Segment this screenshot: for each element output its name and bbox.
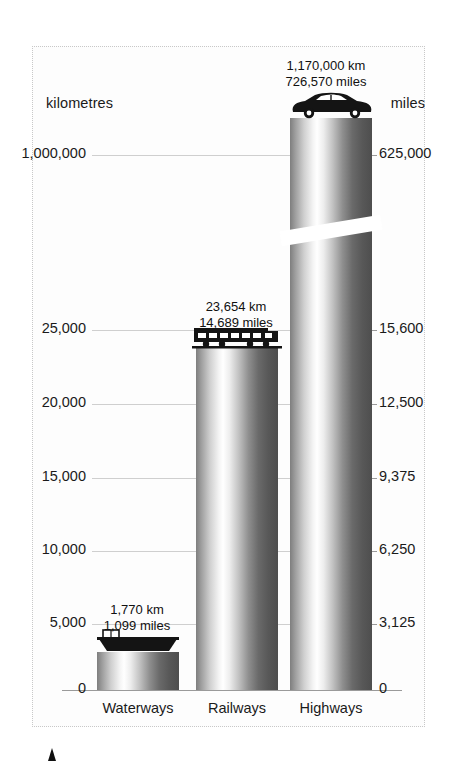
bar-railways — [196, 348, 278, 690]
right-axis-tick-label: 12,500 — [379, 395, 423, 410]
value-label-km: 1,770 km — [67, 602, 207, 618]
triangle-marker-icon — [48, 748, 56, 761]
chart-figure: kilometres miles 1,000,00025,00020,00015… — [0, 0, 455, 770]
right-axis-tick-label: 0 — [379, 681, 387, 696]
value-label-km: 23,654 km — [166, 299, 306, 315]
left-axis-tick-label: 0 — [78, 681, 86, 696]
left-axis-tick-label: 10,000 — [42, 542, 86, 557]
bar-waterways — [97, 652, 179, 690]
axis-baseline — [62, 690, 402, 691]
left-axis-caption: kilometres — [46, 95, 113, 111]
left-axis-tick-label: 15,000 — [42, 469, 86, 484]
right-axis-tick-label: 625,000 — [379, 146, 431, 161]
bar-highways — [290, 118, 372, 690]
left-axis-tick-label: 25,000 — [42, 321, 86, 336]
value-label-miles: 726,570 miles — [256, 74, 396, 90]
right-axis-caption: miles — [391, 95, 425, 111]
right-axis-tick-label: 6,250 — [379, 542, 415, 557]
left-axis-tick-label: 1,000,000 — [21, 146, 86, 161]
value-label-miles: 1,099 miles — [67, 618, 207, 634]
value-label-waterways: 1,770 km1,099 miles — [67, 602, 207, 634]
right-axis-tick-label: 9,375 — [379, 469, 415, 484]
value-label-highways: 1,170,000 km726,570 miles — [256, 58, 396, 90]
car-icon — [285, 92, 377, 120]
value-label-miles: 14,689 miles — [166, 315, 306, 331]
category-label-highways: Highways — [271, 700, 391, 716]
value-label-km: 1,170,000 km — [256, 58, 396, 74]
left-axis-tick-label: 20,000 — [42, 395, 86, 410]
right-axis-tick-label: 3,125 — [379, 615, 415, 630]
right-axis-tick-label: 15,600 — [379, 321, 423, 336]
value-label-railways: 23,654 km14,689 miles — [166, 299, 306, 331]
